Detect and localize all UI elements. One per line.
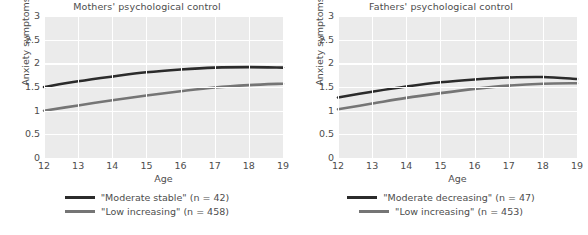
x-tick-label: 16 (168, 160, 194, 172)
gridline-vertical (181, 16, 182, 158)
x-tick-label: 15 (427, 160, 453, 172)
x-tick-label: 15 (133, 160, 159, 172)
gridline-vertical (78, 16, 79, 158)
gridline-horizontal (44, 40, 283, 41)
y-axis-ticks: 00.511.522.53 (298, 16, 334, 158)
legend-label: "Low increasing" (n = 453) (395, 206, 523, 217)
legend-item: "Low increasing" (n = 453) (359, 206, 523, 217)
y-tick-label: 2 (300, 58, 334, 68)
x-tick-label: 14 (99, 160, 125, 172)
legend: "Moderate stable" (n = 42) "Low increasi… (0, 192, 294, 217)
gridline-vertical (44, 16, 45, 158)
gridline-vertical (283, 16, 284, 158)
gridline-horizontal (44, 16, 283, 17)
gridline-horizontal (338, 158, 577, 159)
gridline-horizontal (338, 111, 577, 112)
x-tick-label: 13 (65, 160, 91, 172)
legend-label: "Low increasing" (n = 458) (101, 206, 229, 217)
legend-item: "Moderate decreasing" (n = 47) (347, 192, 535, 203)
gridline-vertical (577, 16, 578, 158)
plot-area (338, 16, 577, 158)
x-axis-label: Age (44, 173, 283, 184)
gridline-horizontal (44, 111, 283, 112)
y-tick-label: 0.5 (300, 129, 334, 139)
x-tick-label: 17 (202, 160, 228, 172)
x-tick-label: 19 (564, 160, 588, 172)
panel-title: Mothers' psychological control (0, 1, 294, 12)
legend-swatch-line-icon (359, 210, 389, 213)
legend-swatch-line-icon (65, 210, 95, 213)
y-tick-label: 2.5 (6, 35, 40, 45)
y-axis-ticks: 00.511.522.53 (4, 16, 40, 158)
legend-item: "Low increasing" (n = 458) (65, 206, 229, 217)
gridline-vertical (543, 16, 544, 158)
y-tick-label: 3 (6, 11, 40, 21)
gridline-vertical (112, 16, 113, 158)
x-tick-label: 17 (496, 160, 522, 172)
gridline-horizontal (338, 16, 577, 17)
panel-title: Fathers' psychological control (294, 1, 588, 12)
gridline-vertical (440, 16, 441, 158)
panel-mothers: Mothers' psychological control Anxiety s… (0, 0, 294, 235)
plot-area (44, 16, 283, 158)
gridline-horizontal (44, 63, 283, 64)
gridline-horizontal (338, 87, 577, 88)
gridline-vertical (372, 16, 373, 158)
gridline-vertical (338, 16, 339, 158)
x-tick-label: 18 (530, 160, 556, 172)
y-tick-label: 1 (300, 106, 334, 116)
x-tick-label: 16 (462, 160, 488, 172)
gridline-horizontal (44, 158, 283, 159)
x-axis-ticks: 1213141516171819 (338, 160, 577, 174)
panel-fathers: Fathers' psychological control Anxiety s… (294, 0, 588, 235)
x-tick-label: 13 (359, 160, 385, 172)
y-tick-label: 3 (300, 11, 334, 21)
gridline-vertical (249, 16, 250, 158)
gridline-horizontal (44, 87, 283, 88)
y-tick-label: 1.5 (6, 82, 40, 92)
x-tick-label: 14 (393, 160, 419, 172)
x-tick-label: 19 (270, 160, 296, 172)
x-axis-ticks: 1213141516171819 (44, 160, 283, 174)
x-tick-label: 18 (236, 160, 262, 172)
gridline-horizontal (338, 63, 577, 64)
gridline-vertical (146, 16, 147, 158)
figure-two-panel-line-charts: Mothers' psychological control Anxiety s… (0, 0, 588, 235)
gridline-vertical (215, 16, 216, 158)
gridline-vertical (406, 16, 407, 158)
legend: "Moderate decreasing" (n = 47) "Low incr… (294, 192, 588, 217)
legend-swatch-line-icon (347, 196, 377, 199)
y-tick-label: 0.5 (6, 129, 40, 139)
gridline-horizontal (338, 40, 577, 41)
x-axis-label: Age (338, 173, 577, 184)
gridline-vertical (509, 16, 510, 158)
legend-swatch-line-icon (65, 196, 95, 199)
legend-label: "Moderate decreasing" (n = 47) (383, 192, 535, 203)
legend-label: "Moderate stable" (n = 42) (101, 192, 230, 203)
y-tick-label: 2.5 (300, 35, 334, 45)
y-tick-label: 1.5 (300, 82, 334, 92)
gridline-horizontal (44, 134, 283, 135)
gridline-vertical (475, 16, 476, 158)
x-tick-label: 12 (325, 160, 351, 172)
y-tick-label: 1 (6, 106, 40, 116)
y-tick-label: 2 (6, 58, 40, 68)
x-tick-label: 12 (31, 160, 57, 172)
legend-item: "Moderate stable" (n = 42) (65, 192, 230, 203)
gridline-horizontal (338, 134, 577, 135)
